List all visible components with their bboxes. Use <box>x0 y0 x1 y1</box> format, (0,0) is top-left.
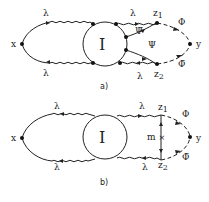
wavy-line-bottom-left <box>22 44 93 64</box>
label-phi: Φ <box>182 109 189 119</box>
label-y: y <box>195 39 202 49</box>
vertex-dot <box>91 22 95 26</box>
label-z1: z1 <box>153 8 163 20</box>
vertex-dot <box>114 22 118 26</box>
label-phi: Φ <box>178 17 185 27</box>
arrow-icon <box>159 122 163 126</box>
arrow-icon <box>60 112 64 116</box>
wavy-line-bottom-left <box>22 138 95 162</box>
label-lambda: λ <box>54 162 60 172</box>
label-psi: Ψ <box>148 40 156 50</box>
arrow-icon <box>138 114 142 118</box>
diagram-a: x y I λ λ λ λ z1 z2 Ψ̄ Ψ Φ Φ̄ a) <box>11 8 202 91</box>
vertex-dot <box>155 21 159 25</box>
vertex-dot <box>20 42 24 46</box>
label-lambda: λ <box>142 162 148 172</box>
vertex-dot <box>124 35 128 39</box>
label-z1: z1 <box>158 102 168 114</box>
caption-b: b) <box>100 178 108 187</box>
label-blob: I <box>99 35 105 54</box>
label-phi-bar: Φ̄ <box>178 59 185 69</box>
cross-mark: × <box>159 133 166 142</box>
vertex-dot <box>91 61 95 65</box>
wavy-line-bottom-right <box>117 157 161 160</box>
label-lambda: λ <box>139 101 145 111</box>
label-z2: z2 <box>154 69 164 81</box>
vertex-dot <box>188 135 192 139</box>
label-lambda: λ <box>43 68 49 78</box>
feynman-diagrams: x y I λ λ λ λ z1 z2 Ψ̄ Ψ Φ Φ̄ a) × <box>0 0 209 202</box>
label-x: x <box>11 133 16 143</box>
label-lambda: λ <box>137 71 143 81</box>
label-y: y <box>195 133 202 143</box>
label-x: x <box>11 39 16 49</box>
label-lambda: λ <box>54 101 60 111</box>
arrow-icon <box>46 21 50 25</box>
arrow-icon <box>159 149 163 153</box>
arrow-icon <box>136 61 140 65</box>
arrow-icon <box>142 156 146 160</box>
vertex-dot <box>124 48 128 52</box>
wavy-line-top-left <box>22 21 93 44</box>
label-m: m <box>147 132 156 142</box>
vertex-dot <box>20 136 24 140</box>
label-lambda: λ <box>130 8 136 18</box>
caption-a: a) <box>100 82 108 91</box>
vertex-dot <box>155 62 159 66</box>
label-psi-bar: Ψ̄ <box>135 26 143 36</box>
diagram-b: × x y I λ λ λ λ z1 z2 m Φ Φ̄ b) <box>11 101 202 187</box>
vertex-dot <box>118 61 122 65</box>
label-z2: z2 <box>158 160 168 172</box>
label-blob: I <box>99 128 105 147</box>
label-lambda: λ <box>43 8 49 18</box>
vertex-dot <box>188 42 192 46</box>
wavy-line-top-left <box>22 113 95 138</box>
label-phi-bar: Φ̄ <box>182 152 189 162</box>
